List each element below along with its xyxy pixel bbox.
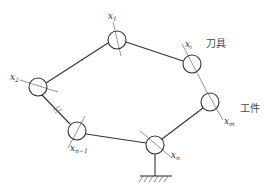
axis-xi-xm <box>182 44 207 92</box>
axis-xm <box>207 92 223 120</box>
label-xn-1: xn−1 <box>70 143 88 154</box>
joint-xi <box>183 55 201 73</box>
joint-xn <box>146 136 164 154</box>
joint-x2 <box>29 78 47 96</box>
label-workpiece: 工件 <box>240 103 260 114</box>
label-x2: x2 <box>10 72 19 83</box>
link-x1-xi <box>126 42 183 61</box>
label-xi: xi <box>185 39 192 50</box>
label-tool: 刀具 <box>206 38 226 49</box>
label-x1: x1 <box>108 11 117 22</box>
axis-x1 <box>113 22 121 56</box>
link-x1-x2 <box>46 43 108 83</box>
joint-xm <box>201 93 219 111</box>
kinematic-chain-diagram: x1 xi xm xn xn−1 x2 刀具 工件 <box>0 0 270 189</box>
link-xn-xm <box>162 108 203 139</box>
label-xn: xn <box>171 150 180 161</box>
axis-x2 <box>20 80 58 92</box>
link-x2-xn-1 <box>42 95 70 124</box>
ground-hatch-icon <box>139 176 168 182</box>
label-xm: xm <box>224 116 235 127</box>
link-xn-1-xn <box>86 134 146 143</box>
